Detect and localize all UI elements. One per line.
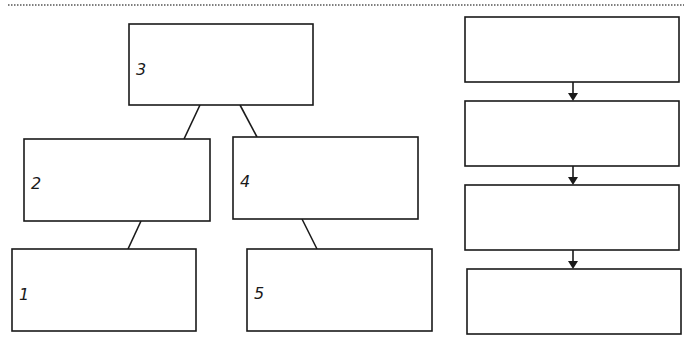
- flow-node-3: [465, 185, 679, 250]
- node-box: [129, 24, 313, 105]
- node-label: 5: [254, 284, 264, 303]
- node-box: [24, 139, 210, 221]
- flow-node-4: [467, 269, 681, 334]
- node-label: 1: [19, 285, 29, 304]
- edge-3-2: [184, 105, 200, 139]
- arrowhead-icon: [568, 177, 578, 185]
- node-label: 2: [31, 174, 41, 193]
- tree-node-1: 1: [12, 249, 196, 331]
- node-label: 4: [240, 172, 250, 191]
- flow-arrow-2-3: [568, 166, 578, 185]
- node-box: [465, 185, 679, 250]
- edge-2-1: [128, 221, 141, 249]
- node-label: 3: [136, 60, 146, 79]
- diagram-canvas: 3 2 4 1 5: [0, 0, 692, 342]
- tree-node-2: 2: [24, 139, 210, 221]
- node-box: [465, 101, 679, 166]
- flow-arrow-1-2: [568, 82, 578, 101]
- flow-arrow-3-4: [568, 250, 578, 269]
- node-box: [233, 137, 418, 219]
- edge-4-5: [302, 219, 317, 249]
- edge-3-4: [240, 105, 257, 137]
- node-box: [247, 249, 432, 331]
- flow-node-2: [465, 101, 679, 166]
- node-box: [465, 17, 679, 82]
- arrowhead-icon: [568, 261, 578, 269]
- node-box: [467, 269, 681, 334]
- node-box: [12, 249, 196, 331]
- flow-node-1: [465, 17, 679, 82]
- tree-node-5: 5: [247, 249, 432, 331]
- tree-node-3: 3: [129, 24, 313, 105]
- tree-node-4: 4: [233, 137, 418, 219]
- arrowhead-icon: [568, 93, 578, 101]
